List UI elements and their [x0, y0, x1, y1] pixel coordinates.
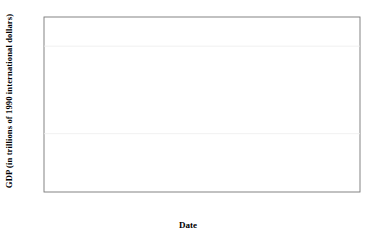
x-axis-title-text: Date — [179, 220, 197, 230]
plot-frame — [44, 17, 360, 192]
gdp-line-chart: GDP (in trillions of 1990 international … — [0, 0, 376, 238]
x-axis-title: Date — [0, 220, 376, 230]
plot-canvas — [0, 0, 376, 238]
